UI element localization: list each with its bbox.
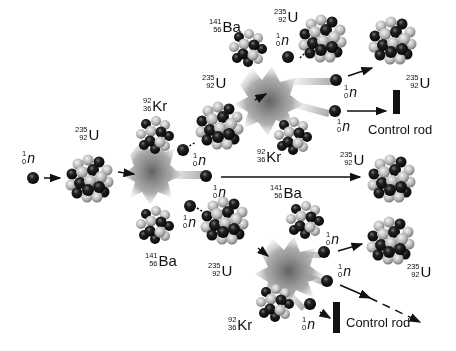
label-u235-upper-target: 23592U [274,8,298,24]
label-ba141-upper: 14156Ba [209,18,241,34]
control-rod-label-lower: Control rod [346,316,410,329]
kr92-gen1 [136,116,174,154]
neutron-trails [160,78,333,311]
label-neutron-lower-c: 10n [302,316,315,332]
ba141-gen1 [136,206,174,244]
u235-upper [196,102,244,150]
u235-lower [201,197,249,245]
diagram-graphics [0,0,456,351]
label-kr92-gen1: 9236Kr [143,97,167,113]
ba141-lower [286,201,324,239]
label-neutron-upper-in: 10n [276,32,289,48]
u235-mid-right [368,155,416,203]
label-neutron-lower-b: 10n [338,263,351,279]
label-u235-top-right: 23592U [406,74,430,90]
label-ba141-gen1: 14156Ba [145,252,177,268]
u235-initial [66,155,114,203]
label-neutron-lower-a: 10n [326,231,339,247]
control-rod-label-upper: Control rod [368,123,432,136]
u235-upper-right [299,15,347,63]
kr92-lower [256,284,294,322]
u235-top-right [369,17,417,65]
u235-lower-right [367,217,415,265]
control-rod-upper [393,90,400,114]
control-rod-lower [333,302,340,333]
label-kr92-lower: 9236Kr [228,316,252,332]
label-neutron-gen1-c: 10n [183,214,196,230]
label-u235-initial: 23592U [75,126,99,142]
label-ba141-lower: 14156Ba [270,184,302,200]
ba141-upper [229,29,267,67]
label-u235-lower-right: 23592U [407,263,431,279]
label-neutron-start: 10n [22,150,35,166]
label-u235-upper: 23592U [202,74,226,90]
fission-diagram: 10n 23592U 9236Kr 14156Ba 10n 10n 10n 23… [0,0,456,351]
label-neutron-upper-b: 10n [337,118,350,134]
label-neutron-gen1-b: 10n [213,184,226,200]
nuclei [66,15,417,323]
label-kr92-upper: 9236Kr [257,148,281,164]
label-u235-lower: 23592U [208,262,232,278]
label-neutron-gen1-a: 10n [193,152,206,168]
label-neutron-upper-a: 10n [344,84,357,100]
label-u235-mid-right: 23592U [340,151,364,167]
